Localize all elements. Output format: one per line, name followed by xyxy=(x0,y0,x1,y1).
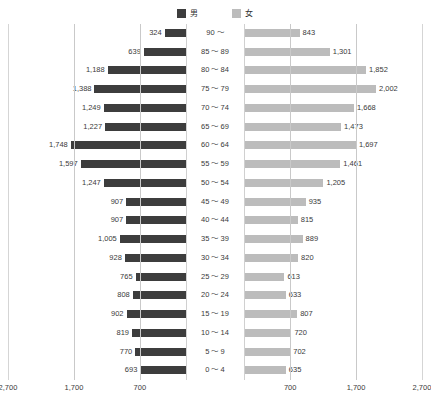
bar-female xyxy=(244,273,284,281)
gridline-right-1700 xyxy=(356,24,357,380)
pyramid-row: 90745 ～ 49935 xyxy=(0,193,430,212)
axis-tick-left: 2,700 xyxy=(0,382,17,394)
age-group-label: 15 ～ 19 xyxy=(186,307,244,320)
bar-female xyxy=(244,104,354,112)
bar-value-female: 1,205 xyxy=(326,176,345,189)
bar-male xyxy=(125,254,186,262)
bar-value-male: 902 xyxy=(111,307,124,320)
bar-value-male: 324 xyxy=(149,26,162,39)
bar-value-male: 765 xyxy=(120,270,133,283)
axis-tick-left: 1,700 xyxy=(65,382,84,394)
plot-area: 32490 ～84363985 ～ 891,3011,18880 ～ 841,8… xyxy=(0,24,430,380)
square-swatch-icon xyxy=(177,9,186,18)
age-group-label: 75 ～ 79 xyxy=(186,82,244,95)
bar-female xyxy=(244,123,341,131)
age-group-label: 85 ～ 89 xyxy=(186,45,244,58)
pyramid-row: 76525 ～ 29613 xyxy=(0,268,430,287)
age-group-label: 25 ～ 29 xyxy=(186,270,244,283)
bar-female xyxy=(244,48,330,56)
bar-female xyxy=(244,329,291,337)
bar-value-male: 1,227 xyxy=(83,120,102,133)
bar-value-male: 928 xyxy=(109,251,122,264)
legend-label: 女 xyxy=(245,9,253,18)
gridline-right-700 xyxy=(290,24,291,380)
bar-male xyxy=(104,179,186,187)
bar-rows: 32490 ～84363985 ～ 891,3011,18880 ～ 841,8… xyxy=(0,24,430,380)
pyramid-row: 90740 ～ 44815 xyxy=(0,211,430,230)
gridline-left-2700 xyxy=(8,24,9,380)
bar-female xyxy=(244,160,340,168)
pyramid-row: 1,18880 ～ 841,852 xyxy=(0,61,430,80)
bar-value-female: 720 xyxy=(294,326,307,339)
age-group-label: 5 ～ 9 xyxy=(186,345,244,358)
age-group-label: 50 ～ 54 xyxy=(186,176,244,189)
pyramid-row: 1,00535 ～ 39889 xyxy=(0,230,430,249)
bar-male xyxy=(105,123,186,131)
bar-value-male: 693 xyxy=(125,363,138,376)
age-group-label: 30 ～ 34 xyxy=(186,251,244,264)
gridline-right-2700 xyxy=(422,24,423,380)
bar-female xyxy=(244,179,323,187)
bar-value-male: 1,748 xyxy=(49,138,68,151)
bar-value-male: 1,388 xyxy=(73,82,92,95)
axis-tick-right: 1,700 xyxy=(347,382,366,394)
pyramid-row: 80820 ～ 24633 xyxy=(0,286,430,305)
bar-male xyxy=(120,235,186,243)
bar-male xyxy=(140,366,186,374)
age-group-label: 90 ～ xyxy=(186,26,244,39)
bar-value-female: 889 xyxy=(306,232,319,245)
bar-value-female: 1,697 xyxy=(359,138,378,151)
age-group-label: 70 ～ 74 xyxy=(186,101,244,114)
bar-value-male: 808 xyxy=(117,288,130,301)
bar-value-female: 702 xyxy=(293,345,306,358)
bar-male xyxy=(104,104,186,112)
axis-tick-right: 700 xyxy=(284,382,297,394)
pyramid-row: 63985 ～ 891,301 xyxy=(0,43,430,62)
age-group-label: 65 ～ 69 xyxy=(186,120,244,133)
legend-entry: 男 xyxy=(177,9,198,18)
pyramid-row: 7705 ～ 9702 xyxy=(0,343,430,362)
square-swatch-icon xyxy=(232,9,241,18)
gridline-left-1700 xyxy=(74,24,75,380)
age-group-label: 20 ～ 24 xyxy=(186,288,244,301)
pyramid-row: 1,24970 ～ 741,668 xyxy=(0,99,430,118)
bar-male xyxy=(126,198,186,206)
bar-value-male: 770 xyxy=(120,345,133,358)
bar-male xyxy=(108,66,186,74)
age-group-label: 40 ～ 44 xyxy=(186,213,244,226)
axis-tick-right: 2,700 xyxy=(413,382,431,394)
bar-female xyxy=(244,66,366,74)
bar-male xyxy=(135,348,186,356)
center-axis-left xyxy=(186,24,187,380)
age-group-label: 35 ～ 39 xyxy=(186,232,244,245)
axis-tick-left: 700 xyxy=(134,382,147,394)
bar-female xyxy=(244,366,286,374)
age-group-label: 45 ～ 49 xyxy=(186,195,244,208)
pyramid-row: 90215 ～ 19807 xyxy=(0,305,430,324)
age-group-label: 10 ～ 14 xyxy=(186,326,244,339)
bar-value-female: 2,002 xyxy=(379,82,398,95)
legend-entry: 女 xyxy=(232,9,253,18)
bar-female xyxy=(244,141,356,149)
bar-value-male: 1,188 xyxy=(86,63,105,76)
pyramid-row: 32490 ～843 xyxy=(0,24,430,43)
pyramid-row: 81910 ～ 14720 xyxy=(0,324,430,343)
bar-female xyxy=(244,291,286,299)
pyramid-row: 92830 ～ 34820 xyxy=(0,249,430,268)
bar-male xyxy=(165,29,186,37)
pyramid-row: 6930 ～ 4635 xyxy=(0,361,430,380)
bar-male xyxy=(126,216,186,224)
bar-male xyxy=(136,273,186,281)
bar-male xyxy=(71,141,186,149)
age-group-label: 0 ～ 4 xyxy=(186,363,244,376)
bar-value-female: 1,473 xyxy=(344,120,363,133)
bar-female xyxy=(244,29,300,37)
bar-value-female: 1,301 xyxy=(333,45,352,58)
bar-value-male: 1,247 xyxy=(82,176,101,189)
bar-female xyxy=(244,198,306,206)
bar-value-female: 807 xyxy=(300,307,313,320)
legend-label: 男 xyxy=(190,9,198,18)
bar-value-female: 1,852 xyxy=(369,63,388,76)
center-axis-right xyxy=(244,24,245,380)
